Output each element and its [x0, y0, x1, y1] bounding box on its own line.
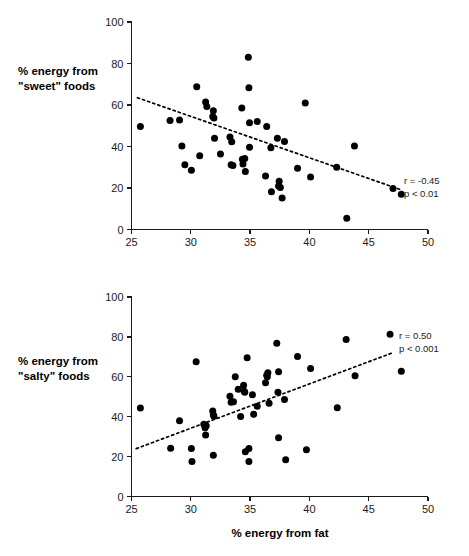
data-point [210, 413, 217, 420]
y-tick-label: 100 [105, 291, 123, 303]
data-point [351, 142, 358, 149]
data-point [343, 336, 350, 343]
data-point [228, 138, 235, 145]
x-tick-label: 45 [363, 503, 375, 515]
data-point [302, 99, 309, 106]
data-point [275, 368, 282, 375]
data-point [193, 358, 200, 365]
x-tick-label: 50 [422, 236, 434, 248]
stat-annotation: r = -0.45 [404, 175, 440, 186]
data-point [203, 103, 210, 110]
data-point [281, 138, 288, 145]
x-tick-label: 50 [422, 503, 434, 515]
data-point [217, 150, 224, 157]
y-tick-label: 60 [111, 371, 123, 383]
data-point [398, 368, 405, 375]
data-point [245, 458, 252, 465]
data-point [181, 161, 188, 168]
data-point [307, 365, 314, 372]
y-tick-label: 80 [111, 58, 123, 70]
data-point [188, 445, 195, 452]
data-point [281, 396, 288, 403]
x-tick-label: 25 [125, 236, 137, 248]
x-tick-label: 30 [185, 236, 197, 248]
data-point [246, 119, 253, 126]
data-point [202, 432, 209, 439]
figure-container: 020406080100253035404550% energy from"sw… [0, 0, 469, 556]
data-point [210, 452, 217, 459]
data-point [211, 135, 218, 142]
data-point [229, 162, 236, 169]
data-point [137, 405, 144, 412]
data-point [277, 184, 284, 191]
data-point [390, 185, 397, 192]
data-point [245, 54, 252, 61]
data-point [279, 194, 286, 201]
y-tick-label: 20 [111, 182, 123, 194]
data-point [188, 458, 195, 465]
data-point [307, 174, 314, 181]
y-axis-title-line2: "sweet" foods [18, 80, 95, 92]
y-tick-label: 0 [117, 224, 123, 236]
data-point [263, 123, 270, 130]
y-tick-label: 80 [111, 331, 123, 343]
panel-bottom: 020406080100253035404550% energy from"sa… [18, 291, 439, 515]
x-tick-label: 30 [185, 503, 197, 515]
stat-annotation: p < 0.001 [399, 343, 439, 354]
data-point [244, 354, 251, 361]
data-point [266, 400, 273, 407]
panel-top: 020406080100253035404550% energy from"sw… [18, 16, 440, 248]
data-point [387, 331, 394, 338]
data-point [167, 445, 174, 452]
trend-line [137, 98, 401, 190]
data-point [245, 84, 252, 91]
data-point [245, 445, 252, 452]
data-point [267, 144, 274, 151]
data-point [294, 165, 301, 172]
data-point [232, 373, 239, 380]
data-point [237, 413, 244, 420]
y-tick-label: 100 [105, 16, 123, 28]
data-point [274, 135, 281, 142]
data-point [241, 155, 248, 162]
data-point [230, 398, 237, 405]
data-point [196, 152, 203, 159]
data-point [246, 144, 253, 151]
data-point [352, 372, 359, 379]
data-point [303, 446, 310, 453]
data-point [282, 456, 289, 463]
data-point [241, 389, 248, 396]
data-point [249, 391, 256, 398]
data-point [188, 167, 195, 174]
x-tick-label: 40 [303, 236, 315, 248]
data-point [176, 417, 183, 424]
y-tick-label: 60 [111, 99, 123, 111]
y-tick-label: 40 [111, 141, 123, 153]
y-axis-title-line2: "salty" foods [18, 370, 90, 382]
data-point [238, 105, 245, 112]
data-point [254, 403, 261, 410]
data-point [167, 117, 174, 124]
data-point [273, 340, 280, 347]
data-point [178, 142, 185, 149]
axis-lines [132, 297, 429, 497]
x-axis-title: % energy from fat [231, 527, 328, 539]
data-point [250, 411, 257, 418]
scatter-figure: 020406080100253035404550% energy from"sw… [0, 0, 469, 556]
data-point [264, 369, 271, 376]
data-point [275, 434, 282, 441]
y-tick-label: 20 [111, 451, 123, 463]
trend-line [136, 353, 392, 449]
x-tick-label: 35 [244, 236, 256, 248]
stat-annotation: r = 0.50 [399, 330, 431, 341]
data-point [268, 188, 275, 195]
data-point [254, 118, 261, 125]
y-tick-label: 40 [111, 411, 123, 423]
data-point [262, 379, 269, 386]
y-tick-label: 0 [117, 491, 123, 503]
x-tick-label: 40 [303, 503, 315, 515]
data-point [240, 382, 247, 389]
data-point [334, 404, 341, 411]
data-point [294, 353, 301, 360]
data-point [343, 215, 350, 222]
